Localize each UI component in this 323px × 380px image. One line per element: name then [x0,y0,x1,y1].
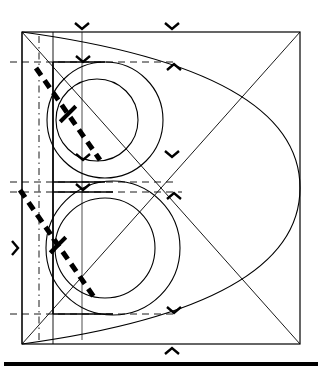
chevron-top-stem [75,23,89,29]
drawing-canvas [0,0,323,380]
chevron-left-middle [12,241,18,255]
great-arc-lower [22,188,300,344]
chevron-top-right [165,23,179,29]
chevron-midband-stem [76,184,90,190]
chevron-bottom-centre [165,348,179,354]
chevron-waist-right [165,151,179,157]
chevron-cap-right [167,64,181,70]
upper-bowl-inner [56,79,138,161]
chevron-midband-right [167,193,181,199]
chevron-cap-stem [76,56,90,62]
lower-bowl-inner [55,198,155,298]
construction-figure: Geometric construction of the letter B B [0,0,323,380]
chevron-waist-stem [76,154,90,160]
